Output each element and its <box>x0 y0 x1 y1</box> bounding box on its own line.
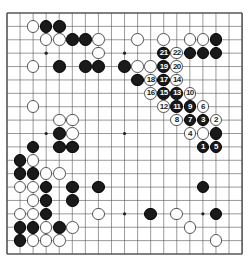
black-stone[interactable] <box>79 60 92 73</box>
white-stone[interactable] <box>66 114 79 127</box>
white-stone[interactable] <box>197 33 210 46</box>
star-point <box>45 132 48 135</box>
white-stone[interactable] <box>27 194 40 207</box>
numbered-white-stone[interactable]: 12 <box>157 100 170 113</box>
white-stone[interactable] <box>27 20 40 33</box>
white-stone[interactable] <box>197 127 210 140</box>
black-stone[interactable] <box>92 60 105 73</box>
black-stone[interactable] <box>210 127 223 140</box>
numbered-white-stone[interactable]: 4 <box>184 127 197 140</box>
white-stone[interactable] <box>157 33 170 46</box>
black-stone[interactable] <box>53 221 66 234</box>
white-stone[interactable] <box>131 33 144 46</box>
numbered-white-stone[interactable]: 10 <box>184 87 197 100</box>
black-stone[interactable] <box>66 194 79 207</box>
black-stone[interactable] <box>14 221 27 234</box>
star-point <box>123 52 126 55</box>
white-stone[interactable] <box>66 221 79 234</box>
black-stone[interactable] <box>14 154 27 167</box>
white-stone[interactable] <box>210 234 223 247</box>
white-stone[interactable] <box>53 234 66 247</box>
white-stone[interactable] <box>170 208 183 221</box>
black-stone[interactable] <box>131 74 144 87</box>
black-stone[interactable] <box>53 127 66 140</box>
black-stone[interactable] <box>40 20 53 33</box>
star-point <box>201 212 204 215</box>
numbered-black-stone[interactable]: 19 <box>157 60 170 73</box>
white-stone[interactable] <box>92 47 105 60</box>
numbered-black-stone[interactable]: 9 <box>184 100 197 113</box>
white-stone[interactable] <box>131 60 144 73</box>
numbered-white-stone[interactable]: 6 <box>197 100 210 113</box>
white-stone[interactable] <box>53 114 66 127</box>
numbered-black-stone[interactable]: 11 <box>170 100 183 113</box>
numbered-white-stone[interactable]: 20 <box>170 60 183 73</box>
white-stone[interactable] <box>66 127 79 140</box>
numbered-black-stone[interactable]: 15 <box>157 87 170 100</box>
white-stone[interactable] <box>53 33 66 46</box>
black-stone[interactable] <box>92 181 105 194</box>
black-stone[interactable] <box>53 20 66 33</box>
star-point <box>123 132 126 135</box>
white-stone[interactable] <box>184 221 197 234</box>
star-point <box>123 212 126 215</box>
white-stone[interactable] <box>40 221 53 234</box>
black-stone[interactable] <box>66 141 79 154</box>
black-stone[interactable] <box>40 194 53 207</box>
black-stone[interactable] <box>27 221 40 234</box>
white-stone[interactable] <box>53 167 66 180</box>
numbered-white-stone[interactable]: 18 <box>144 74 157 87</box>
black-stone[interactable] <box>118 60 131 73</box>
black-stone[interactable] <box>66 181 79 194</box>
white-stone[interactable] <box>184 33 197 46</box>
numbered-black-stone[interactable]: 13 <box>170 87 183 100</box>
black-stone[interactable] <box>53 141 66 154</box>
white-stone[interactable] <box>144 60 157 73</box>
numbered-white-stone[interactable]: 16 <box>144 87 157 100</box>
go-board[interactable]: 12345678910111213141516171819202122 <box>0 0 250 264</box>
star-point <box>45 52 48 55</box>
black-stone[interactable] <box>144 208 157 221</box>
white-stone[interactable] <box>92 33 105 46</box>
black-stone[interactable] <box>66 33 79 46</box>
white-stone[interactable] <box>92 208 105 221</box>
white-stone[interactable] <box>27 154 40 167</box>
numbered-black-stone[interactable]: 17 <box>157 74 170 87</box>
black-stone[interactable] <box>53 60 66 73</box>
black-stone[interactable] <box>79 33 92 46</box>
